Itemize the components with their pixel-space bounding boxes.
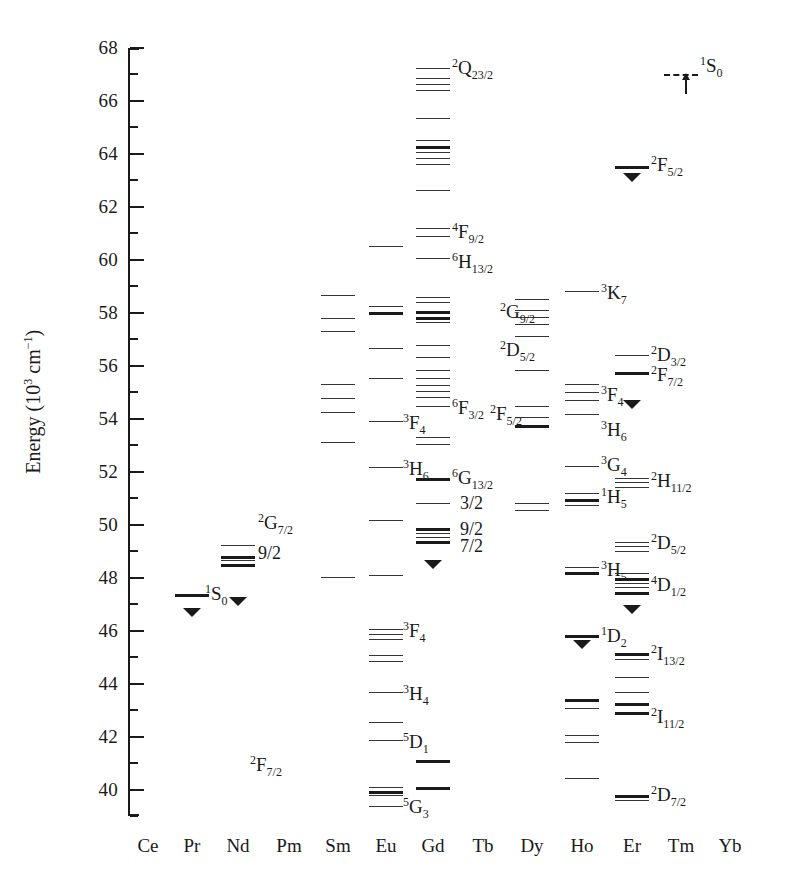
y-tick-major bbox=[130, 577, 144, 579]
y-tick-label: 64 bbox=[58, 144, 118, 163]
energy-level-line bbox=[369, 634, 403, 635]
energy-level-line bbox=[416, 760, 450, 763]
energy-level-line bbox=[615, 592, 649, 595]
energy-level-line bbox=[321, 577, 355, 578]
energy-level-line bbox=[416, 317, 450, 320]
energy-level-line bbox=[565, 735, 599, 736]
energy-level-line bbox=[321, 384, 355, 385]
energy-level-line bbox=[369, 246, 403, 247]
y-tick-label: 66 bbox=[58, 91, 118, 110]
energy-level-line bbox=[369, 520, 403, 521]
energy-level-line bbox=[565, 635, 599, 638]
energy-level-line bbox=[416, 158, 450, 159]
y-tick-major bbox=[130, 259, 144, 261]
energy-level-line bbox=[615, 653, 649, 656]
term-symbol-nd: 9/2 bbox=[258, 544, 281, 563]
energy-level-line bbox=[416, 311, 450, 314]
energy-level-line bbox=[369, 692, 403, 693]
energy-level-line bbox=[515, 503, 549, 504]
energy-level-line bbox=[416, 444, 450, 445]
term-symbol-gd: 6F3/2 bbox=[452, 398, 484, 417]
element-label-sm: Sm bbox=[315, 836, 361, 856]
y-tick-label: 58 bbox=[58, 303, 118, 322]
y-tick-label: 68 bbox=[58, 38, 118, 57]
energy-level-line bbox=[416, 385, 450, 386]
term-symbol-ho: 1D2 bbox=[601, 626, 627, 645]
term-symbol-ho: 3G4 bbox=[601, 455, 627, 474]
energy-level-line bbox=[416, 787, 450, 790]
y-tick-minor bbox=[130, 762, 138, 764]
energy-level-line bbox=[615, 795, 649, 798]
term-symbol-ho: 1H5 bbox=[601, 487, 627, 506]
y-tick-label: 44 bbox=[58, 674, 118, 693]
energy-level-line bbox=[565, 708, 599, 709]
y-axis-title-tail: cm bbox=[22, 349, 44, 378]
level-triangle-marker bbox=[424, 560, 442, 569]
y-tick-minor bbox=[130, 338, 138, 340]
element-label-ce: Ce bbox=[125, 836, 171, 856]
energy-level-line bbox=[416, 528, 450, 531]
term-symbol-gd: 6H13/2 bbox=[452, 252, 493, 271]
energy-level-line bbox=[416, 68, 450, 69]
ionization-arrow-icon bbox=[685, 74, 687, 94]
energy-level-line bbox=[615, 166, 649, 169]
term-symbol-er: 2H11/2 bbox=[651, 471, 692, 490]
energy-level-line bbox=[416, 297, 450, 298]
energy-level-line bbox=[416, 236, 450, 237]
y-tick-minor bbox=[130, 603, 138, 605]
element-label-ho: Ho bbox=[559, 836, 605, 856]
term-symbol-dy: 2G9/2 bbox=[500, 302, 535, 321]
energy-level-line bbox=[369, 740, 403, 741]
element-label-gd: Gd bbox=[410, 836, 456, 856]
energy-level-line bbox=[416, 397, 450, 398]
y-tick-major bbox=[130, 365, 144, 367]
energy-level-line bbox=[221, 556, 255, 559]
energy-level-line bbox=[369, 378, 403, 379]
y-tick-minor bbox=[130, 285, 138, 287]
energy-level-line bbox=[416, 322, 450, 323]
energy-level-line bbox=[416, 378, 450, 379]
y-tick-label: 46 bbox=[58, 621, 118, 640]
energy-level-line bbox=[565, 384, 599, 385]
term-symbol-ho: 3H5 bbox=[601, 560, 627, 579]
energy-level-line bbox=[416, 533, 450, 534]
energy-level-line bbox=[369, 722, 403, 723]
y-axis-title: Energy (103 cm−1) bbox=[21, 297, 45, 507]
energy-level-line bbox=[664, 74, 698, 76]
energy-level-line bbox=[321, 398, 355, 399]
element-label-er: Er bbox=[609, 836, 655, 856]
y-tick-major bbox=[130, 736, 144, 738]
term-symbol-pr: 1S0 bbox=[205, 584, 228, 603]
term-symbol-dy: 2D5/2 bbox=[500, 340, 535, 359]
energy-level-line bbox=[416, 537, 450, 538]
y-tick-major bbox=[130, 206, 144, 208]
energy-level-line bbox=[416, 78, 450, 79]
energy-level-line bbox=[416, 84, 450, 85]
y-tick-minor bbox=[130, 550, 138, 552]
y-tick-major bbox=[130, 312, 144, 314]
term-symbol-gd: 7/2 bbox=[460, 537, 483, 556]
energy-level-line bbox=[321, 331, 355, 332]
y-tick-minor bbox=[130, 444, 138, 446]
energy-level-line bbox=[416, 503, 450, 504]
energy-level-line bbox=[321, 295, 355, 296]
term-symbol-nd: 2F7/2 bbox=[250, 755, 282, 774]
y-tick-minor bbox=[130, 232, 138, 234]
energy-level-line bbox=[416, 370, 450, 371]
energy-level-line bbox=[615, 482, 649, 483]
energy-level-line bbox=[369, 787, 403, 788]
element-label-pm: Pm bbox=[266, 836, 312, 856]
level-triangle-marker bbox=[623, 400, 641, 409]
energy-level-line bbox=[416, 437, 450, 438]
energy-level-line bbox=[565, 466, 599, 467]
energy-level-line bbox=[221, 560, 255, 561]
y-tick-major bbox=[130, 153, 144, 155]
energy-level-line bbox=[615, 372, 649, 375]
y-tick-minor bbox=[130, 656, 138, 658]
energy-level-line bbox=[615, 659, 649, 660]
y-axis-line bbox=[128, 48, 130, 816]
energy-level-line bbox=[565, 572, 599, 575]
energy-level-line bbox=[615, 800, 649, 801]
energy-level-line bbox=[369, 467, 403, 468]
term-symbol-er: 2F5/2 bbox=[651, 155, 683, 174]
